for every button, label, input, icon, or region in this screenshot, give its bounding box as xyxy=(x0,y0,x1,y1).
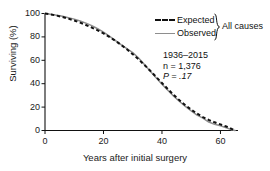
annotation-period: 1936–2015 xyxy=(163,50,208,61)
legend-swatch-solid-icon xyxy=(155,33,175,34)
legend-brace-icon xyxy=(213,13,221,41)
annotation-p-value: P = .17 xyxy=(163,71,208,82)
legend-label-observed: Observed xyxy=(177,27,216,39)
y-axis-tick-label: 0 xyxy=(12,126,40,135)
chart-annotation-block: 1936–2015 n = 1,376 P = .17 xyxy=(163,50,208,82)
legend-swatch-dashed-icon xyxy=(155,19,175,21)
x-axis-tick-label: 0 xyxy=(31,137,59,146)
y-axis-title: Surviving (%) xyxy=(7,12,18,96)
x-axis-tick-label: 60 xyxy=(206,137,234,146)
annotation-sample-size: n = 1,376 xyxy=(163,61,208,72)
survival-chart-figure: 020406080100 0204060 Surviving (%) Years… xyxy=(0,0,270,171)
y-axis-tick-label: 20 xyxy=(12,103,40,112)
legend-group-label: All causes xyxy=(222,21,263,31)
x-axis-tick-label: 20 xyxy=(89,137,117,146)
legend-label-expected: Expected xyxy=(177,14,215,26)
x-axis-title: Years after initial surgery xyxy=(45,152,225,163)
x-axis-tick-label: 40 xyxy=(148,137,176,146)
